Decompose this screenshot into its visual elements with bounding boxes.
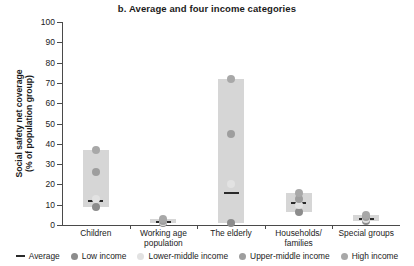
y-axis-tick-label: 20 — [33, 179, 55, 189]
legend-item[interactable]: Low income — [71, 251, 127, 261]
y-axis-tick-label: 10 — [33, 200, 55, 210]
y-axis-title-text: Social safety net coverage (% of populat… — [14, 70, 34, 178]
legend-label: Upper-middle income — [250, 251, 330, 261]
data-point-marker — [362, 211, 370, 219]
legend-dot-icon — [239, 253, 246, 260]
chart-legend: AverageLow incomeLower-middle incomeUppe… — [0, 248, 414, 264]
y-axis-tick-label: 90 — [33, 37, 55, 47]
legend-item[interactable]: Lower-middle income — [137, 251, 228, 261]
y-axis-tick-label: 30 — [33, 159, 55, 169]
data-point-marker — [92, 195, 100, 203]
y-axis-tick — [57, 205, 62, 206]
data-point-marker — [227, 75, 235, 83]
legend-label: Low income — [82, 251, 127, 261]
legend-label: High income — [352, 251, 399, 261]
plot-area: Social safety net coverage (% of populat… — [62, 22, 400, 225]
y-axis-tick — [57, 63, 62, 64]
y-axis-line — [62, 22, 63, 225]
legend-dot-icon — [137, 253, 144, 260]
y-axis-tick — [57, 184, 62, 185]
y-axis-tick — [57, 225, 62, 226]
y-axis-title-line1: Social safety net coverage — [14, 70, 24, 178]
data-point-marker — [159, 215, 167, 223]
x-axis-category-label: Special groups — [323, 229, 409, 239]
data-point-marker — [227, 130, 235, 138]
legend-item[interactable]: Upper-middle income — [239, 251, 330, 261]
data-point-marker — [92, 168, 100, 176]
y-axis-tick — [57, 42, 62, 43]
y-axis-tick-label: 100 — [33, 17, 55, 27]
data-point-marker — [295, 189, 303, 197]
data-point-marker — [92, 146, 100, 154]
y-axis-tick — [57, 103, 62, 104]
legend-label: Lower-middle income — [148, 251, 228, 261]
y-axis-tick — [57, 164, 62, 165]
legend-dash-icon — [16, 255, 25, 257]
legend-label: Average — [29, 251, 60, 261]
data-point-marker — [227, 219, 235, 227]
y-axis-tick — [57, 22, 62, 23]
y-axis-tick — [57, 83, 62, 84]
range-bar — [218, 79, 244, 223]
y-axis-tick — [57, 144, 62, 145]
y-axis-tick-label: 60 — [33, 98, 55, 108]
legend-item[interactable]: High income — [341, 251, 399, 261]
y-axis-tick-label: 80 — [33, 58, 55, 68]
data-point-marker — [227, 180, 235, 188]
y-axis-tick-label: 70 — [33, 78, 55, 88]
average-marker — [224, 192, 239, 194]
y-axis-tick-label: 0 — [33, 220, 55, 230]
y-axis-tick-label: 50 — [33, 119, 55, 129]
y-axis-tick — [57, 124, 62, 125]
legend-item[interactable]: Average — [16, 251, 60, 261]
y-axis-tick-label: 40 — [33, 139, 55, 149]
chart-container: b. Average and four income categories So… — [0, 0, 414, 266]
data-point-marker — [92, 203, 100, 211]
data-point-marker — [295, 208, 303, 216]
chart-title: b. Average and four income categories — [0, 3, 414, 14]
legend-dot-icon — [341, 253, 348, 260]
legend-dot-icon — [71, 253, 78, 260]
